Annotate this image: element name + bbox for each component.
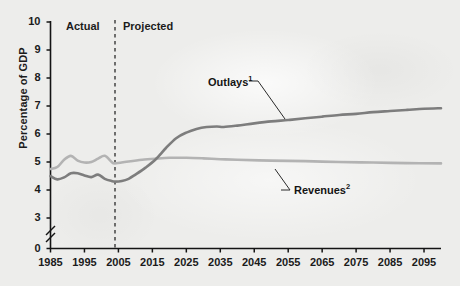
y-tick-label-6: 6 <box>19 127 41 139</box>
outlays-leader-line <box>249 81 285 119</box>
series-line-revenues <box>51 156 442 169</box>
chart-plot-area <box>0 0 460 286</box>
revenues-leader-line <box>275 169 290 190</box>
label-projected: Projected <box>123 20 173 32</box>
series-label-outlays-superscript: 1 <box>248 74 252 83</box>
y-tick-label-10: 10 <box>19 15 41 27</box>
label-actual: Actual <box>66 20 100 32</box>
y-tick-label-8: 8 <box>19 71 41 83</box>
x-tick-label-2095: 2095 <box>401 256 447 268</box>
y-tick-label-0: 0 <box>19 242 41 254</box>
y-tick-label-5: 5 <box>19 155 41 167</box>
y-tick-label-3: 3 <box>19 211 41 223</box>
y-tick-label-9: 9 <box>19 43 41 55</box>
series-label-outlays-text: Outlays <box>208 76 248 88</box>
y-tick-label-7: 7 <box>19 99 41 111</box>
series-label-revenues-superscript: 2 <box>346 182 350 191</box>
y-tick-label-4: 4 <box>19 183 41 195</box>
chart-figure: Percentage of GDP 1098765430 19851995200… <box>0 0 460 286</box>
series-label-revenues-text: Revenues <box>294 184 346 196</box>
series-label-revenues: Revenues2 <box>294 182 350 196</box>
series-line-outlays <box>51 108 442 181</box>
series-label-outlays: Outlays1 <box>208 74 253 88</box>
